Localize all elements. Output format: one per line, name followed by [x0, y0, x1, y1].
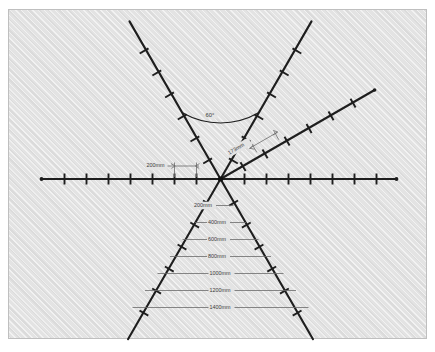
horizontal-dim-group	[166, 163, 200, 178]
cone-label-1400mm: 1400mm	[210, 304, 231, 310]
horizontal-label-200mm: 200mm	[147, 162, 165, 168]
axis-endpoint-right	[395, 177, 399, 181]
diagram-root: 60° 173mm 200mm 200mm 400mm 600mm 800mm …	[0, 0, 435, 352]
origin-node	[218, 176, 223, 181]
diagram-canvas: 60° 173mm 200mm 200mm 400mm 600mm 800mm …	[0, 0, 435, 352]
ray-30-endpoint	[373, 88, 377, 92]
axis-endpoint-left	[40, 177, 44, 181]
cone-label-600mm: 600mm	[208, 236, 226, 242]
ray-upper-left-60	[130, 21, 221, 179]
angle-arc-60	[183, 113, 259, 123]
angle-label-60: 60°	[206, 112, 215, 118]
cone-label-1200mm: 1200mm	[210, 287, 231, 293]
cone-label-200mm: 200mm	[194, 202, 212, 208]
cone-label-1000mm: 1000mm	[210, 270, 231, 276]
cone-label-800mm: 800mm	[208, 253, 226, 259]
ray-upper-right-30	[221, 90, 375, 179]
cone-label-400mm: 400mm	[208, 219, 226, 225]
